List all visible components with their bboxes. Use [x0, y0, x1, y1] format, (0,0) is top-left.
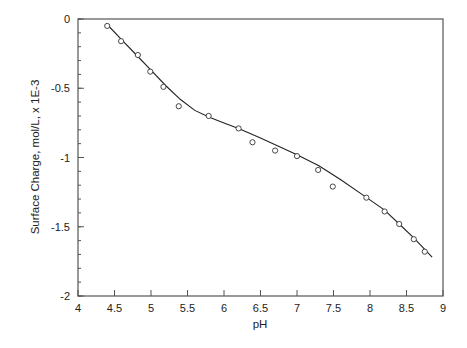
data-point-marker [148, 69, 153, 74]
y-tick-label: -1 [60, 152, 70, 164]
data-point-marker [364, 195, 369, 200]
surface-charge-chart: 0-0.5-1-1.5-2 44.555.566.577.588.59 pH S… [0, 0, 467, 348]
x-axis-title: pH [253, 318, 268, 330]
plot-frame [78, 19, 443, 296]
data-point-marker [161, 84, 166, 89]
model-fit-line [107, 25, 432, 258]
data-point-marker [206, 113, 211, 118]
data-point-marker [236, 126, 241, 131]
data-point-marker [422, 249, 427, 254]
y-tick-label: -0.5 [51, 82, 70, 94]
y-tick-label: -2 [60, 290, 70, 302]
x-tick-label: 4.5 [107, 302, 122, 314]
x-tick-label: 8.5 [399, 302, 414, 314]
x-tick-label: 5 [148, 302, 154, 314]
x-tick-label: 5.5 [180, 302, 195, 314]
data-point-marker [118, 39, 123, 44]
data-point-marker [397, 221, 402, 226]
data-point-marker [382, 209, 387, 214]
data-point-marker [330, 184, 335, 189]
data-point-marker [250, 140, 255, 145]
x-axis-ticks: 44.555.566.577.588.59 [75, 290, 446, 314]
x-tick-label: 7.5 [326, 302, 341, 314]
x-tick-label: 4 [75, 302, 81, 314]
x-tick-label: 6 [221, 302, 227, 314]
data-point-marker [273, 148, 278, 153]
data-series [105, 23, 433, 257]
x-tick-label: 7 [294, 302, 300, 314]
y-tick-label: -1.5 [51, 221, 70, 233]
y-axis-title: Surface Charge, mol/L, x 1E-3 [29, 80, 41, 235]
data-point-marker [316, 167, 321, 172]
data-point-marker [294, 154, 299, 159]
data-point-marker [135, 52, 140, 57]
x-tick-label: 6.5 [253, 302, 268, 314]
data-point-marker [105, 23, 110, 28]
data-point-marker [176, 104, 181, 109]
y-tick-label: 0 [64, 13, 70, 25]
x-tick-label: 8 [367, 302, 373, 314]
y-axis-ticks: 0-0.5-1-1.5-2 [51, 13, 84, 302]
x-tick-label: 9 [440, 302, 446, 314]
data-point-marker [411, 237, 416, 242]
